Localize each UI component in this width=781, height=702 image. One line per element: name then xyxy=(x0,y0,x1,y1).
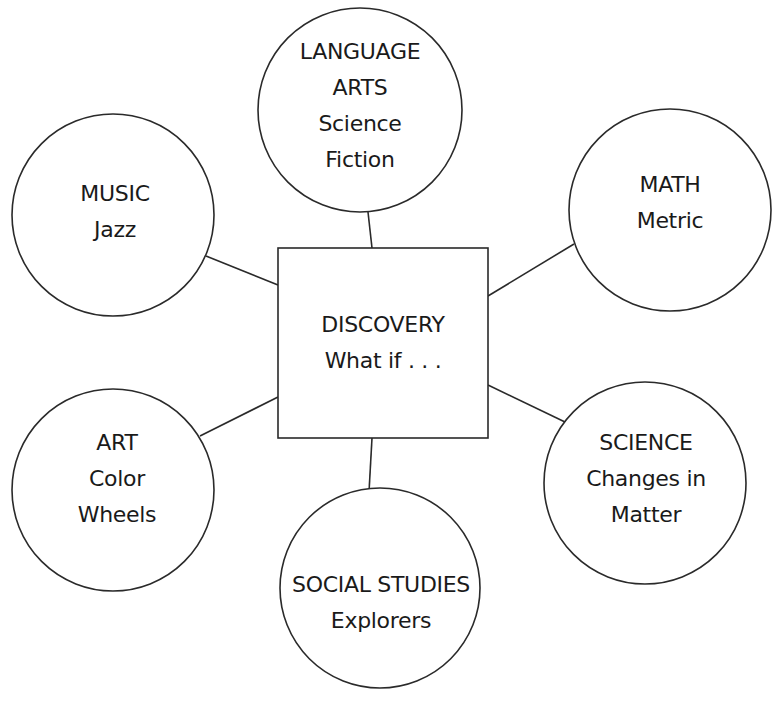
center-subtitle: What if . . . xyxy=(321,343,444,379)
center-title: DISCOVERY xyxy=(321,307,444,343)
node-topic: Metric xyxy=(637,203,704,239)
node-label-language-arts: LANGUAGE ARTS Science Fiction xyxy=(300,34,421,178)
node-subject: MATH xyxy=(637,167,704,203)
node-topic: Wheels xyxy=(78,497,157,533)
connector-social-studies xyxy=(369,438,372,492)
node-label-social-studies: SOCIAL STUDIES Explorers xyxy=(292,567,470,639)
node-subject: SOCIAL STUDIES xyxy=(292,567,470,603)
center-label: DISCOVERY What if . . . xyxy=(321,307,444,379)
node-label-math: MATH Metric xyxy=(637,167,704,239)
connector-music xyxy=(206,256,278,285)
connector-art xyxy=(200,397,278,436)
node-subject: LANGUAGE xyxy=(300,34,421,70)
node-label-science: SCIENCE Changes in Matter xyxy=(586,425,706,533)
node-subject: ART xyxy=(78,425,157,461)
node-subject: ARTS xyxy=(300,70,421,106)
node-topic: Matter xyxy=(586,497,706,533)
node-topic: Science xyxy=(300,106,421,142)
node-topic: Color xyxy=(78,461,157,497)
node-topic: Fiction xyxy=(300,142,421,178)
connector-language-arts xyxy=(368,212,372,248)
node-topic: Explorers xyxy=(292,603,470,639)
node-topic: Changes in xyxy=(586,461,706,497)
node-subject: SCIENCE xyxy=(586,425,706,461)
node-subject: MUSIC xyxy=(80,176,149,212)
node-label-music: MUSIC Jazz xyxy=(80,176,149,248)
connector-math xyxy=(488,244,574,296)
node-topic: Jazz xyxy=(80,212,149,248)
node-label-art: ART Color Wheels xyxy=(78,425,157,533)
connector-science xyxy=(488,385,565,422)
